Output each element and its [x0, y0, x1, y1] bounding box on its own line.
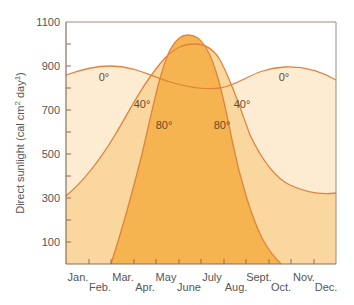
- curve-label-40-right: 40°: [234, 98, 251, 110]
- y-tick-label-700: 700: [42, 104, 60, 116]
- y-tick-label-1100: 1100: [36, 16, 60, 28]
- curve-label-0-right: 0°: [279, 71, 290, 83]
- y-tick-label-300: 300: [42, 192, 60, 204]
- x-label-july: July: [202, 271, 222, 283]
- curve-label-0-left: 0°: [99, 71, 110, 83]
- y-tick-label-900: 900: [42, 60, 60, 72]
- curve-label-80-left: 80°: [156, 119, 173, 131]
- x-label-feb: Feb.: [89, 281, 111, 293]
- y-tick-label-500: 500: [42, 148, 60, 160]
- x-label-sept: Sept.: [246, 271, 272, 283]
- x-label-jan: Jan.: [68, 271, 89, 283]
- x-label-nov: Nov.: [293, 271, 315, 283]
- y-axis-title: Direct sunlight (cal cm2 day1): [13, 72, 26, 214]
- sunlight-chart: 1100 900 700 500 300 100 Jan. Feb. Mar. …: [0, 0, 354, 305]
- curve-label-80-right: 80°: [214, 119, 231, 131]
- curve-label-40-left: 40°: [134, 98, 151, 110]
- x-label-oct: Oct.: [271, 281, 291, 293]
- x-label-may: May: [156, 271, 177, 283]
- y-tick-label-100: 100: [42, 236, 60, 248]
- x-label-mar: Mar.: [112, 271, 133, 283]
- x-label-june: June: [177, 281, 201, 293]
- x-label-apr: Apr.: [135, 281, 155, 293]
- x-label-aug: Aug.: [225, 281, 248, 293]
- x-label-dec: Dec.: [315, 281, 338, 293]
